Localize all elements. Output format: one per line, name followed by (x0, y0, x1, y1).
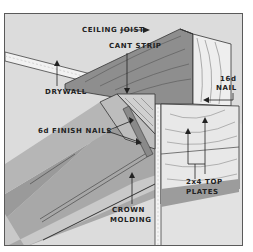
label-plates: PLATES (186, 188, 219, 197)
label-ceiling-joist: CEILING JOIST (82, 26, 144, 35)
label-drywall: DRYWALL (45, 88, 87, 97)
label-cant-strip: CANT STRIP (109, 42, 162, 51)
label-2x4-top: 2x4 TOP (186, 178, 223, 187)
label-crown: CROWN (112, 206, 145, 215)
label-nail: NAIL (216, 84, 237, 93)
diagram-frame: CEILING JOIST CANT STRIP DRYWALL 16d NAI… (4, 13, 243, 246)
label-16d: 16d (220, 75, 237, 84)
label-molding: MOLDING (110, 216, 152, 225)
label-6d-finish-nails: 6d FINISH NAILS (38, 127, 112, 136)
